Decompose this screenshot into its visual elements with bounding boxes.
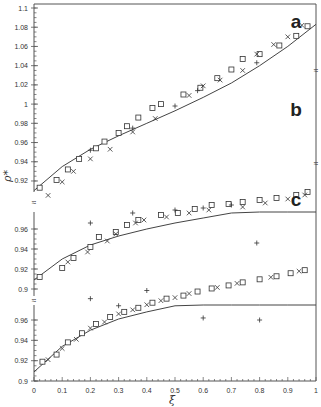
square-marker-icon: [226, 283, 231, 288]
square-marker-icon: [158, 102, 163, 107]
cross-marker-icon: [187, 211, 192, 216]
square-marker-icon: [257, 52, 262, 57]
square-marker-icon: [150, 105, 155, 110]
square-marker-icon: [37, 275, 42, 280]
square-marker-icon: [209, 286, 214, 291]
square-marker-icon: [305, 24, 310, 29]
square-marker-icon: [71, 256, 76, 261]
plus-marker-icon: [88, 221, 93, 226]
cross-marker-icon: [271, 42, 276, 47]
square-marker-icon: [60, 266, 65, 271]
x-tick-label: 0.1: [57, 387, 67, 394]
cross-marker-icon: [215, 285, 220, 290]
plus-marker-icon: [130, 211, 135, 216]
cross-marker-icon: [159, 298, 164, 303]
cross-marker-icon: [116, 312, 121, 317]
cross-marker-icon: [187, 291, 192, 296]
chart-canvas: ≈≈≈≈ 1.11.081.061.041.0210.980.960.940.9…: [0, 0, 321, 407]
y-tick-label: 0.92: [14, 266, 28, 273]
y-tick-label: 0.98: [14, 120, 28, 127]
x-axis-title: ξ: [169, 394, 176, 407]
square-marker-icon: [94, 322, 99, 327]
y-tick-label: 0.96: [14, 226, 28, 233]
square-marker-icon: [158, 213, 163, 218]
square-marker-icon: [240, 56, 245, 61]
square-marker-icon: [150, 300, 155, 305]
square-marker-icon: [274, 274, 279, 279]
cross-marker-icon: [207, 208, 212, 213]
fit-curve-c: [34, 305, 316, 372]
square-marker-icon: [54, 178, 59, 183]
panel-label-b: b: [290, 99, 302, 120]
square-marker-icon: [125, 223, 130, 228]
cross-marker-icon: [71, 169, 76, 174]
cross-marker-icon: [88, 157, 93, 162]
square-marker-icon: [122, 309, 127, 314]
cross-marker-icon: [46, 357, 51, 362]
square-marker-icon: [88, 245, 93, 250]
plus-marker-icon: [173, 104, 178, 109]
y-tick-label: 0.96: [14, 317, 28, 324]
y-tick-label: 1.02: [14, 81, 28, 88]
square-marker-icon: [79, 331, 84, 336]
square-marker-icon: [65, 340, 70, 345]
square-marker-icon: [257, 198, 262, 203]
y-tick-label: 0.9: [18, 286, 28, 293]
square-marker-icon: [240, 280, 245, 285]
cross-marker-icon: [297, 269, 302, 274]
x-tick-label: 0.7: [227, 387, 237, 394]
square-marker-icon: [77, 156, 82, 161]
square-marker-icon: [96, 235, 101, 240]
plus-marker-icon: [144, 288, 149, 293]
x-tick-label: 0: [32, 387, 36, 394]
y-tick-label: 0.9: [18, 378, 28, 385]
y-tick-label: 0.94: [14, 337, 28, 344]
cross-marker-icon: [269, 275, 274, 280]
cross-marker-icon: [85, 250, 90, 255]
fit-curve-b: [34, 212, 316, 280]
square-marker-icon: [175, 211, 180, 216]
panel-label-c: c: [291, 189, 302, 210]
cross-marker-icon: [108, 147, 113, 152]
cross-marker-icon: [187, 93, 192, 98]
axis-labels: 1.11.081.061.041.0210.980.960.940.92a0.9…: [14, 5, 318, 395]
cross-marker-icon: [66, 260, 71, 265]
plus-marker-icon: [257, 318, 262, 323]
square-marker-icon: [37, 185, 42, 190]
square-marker-icon: [164, 296, 169, 301]
cross-marker-icon: [173, 295, 178, 300]
square-marker-icon: [274, 196, 279, 201]
square-marker-icon: [209, 203, 214, 208]
square-marker-icon: [257, 277, 262, 282]
y-tick-label: 0.94: [14, 246, 28, 253]
x-tick-label: 1: [314, 387, 318, 394]
cross-marker-icon: [145, 302, 150, 307]
cross-marker-icon: [142, 218, 147, 223]
cross-marker-icon: [102, 320, 107, 325]
axis-break-icon: ≈: [32, 296, 37, 305]
square-marker-icon: [136, 115, 141, 120]
panel-label-a: a: [291, 11, 302, 32]
cross-marker-icon: [286, 35, 291, 40]
square-marker-icon: [102, 139, 107, 144]
plus-marker-icon: [116, 303, 121, 308]
x-tick-label: 0.8: [255, 387, 265, 394]
square-marker-icon: [195, 289, 200, 294]
cross-marker-icon: [235, 281, 240, 286]
y-tick-label: 0.92: [14, 177, 28, 184]
square-marker-icon: [125, 124, 130, 129]
square-marker-icon: [94, 146, 99, 151]
y-tick-label: 0.94: [14, 158, 28, 165]
x-tick-label: 0.3: [114, 387, 124, 394]
square-marker-icon: [277, 43, 282, 48]
plot-frame: ≈≈≈≈: [31, 4, 319, 381]
axis-break-icon: ≈: [314, 159, 319, 168]
cross-marker-icon: [240, 68, 245, 73]
y-tick-label: 1.1: [18, 5, 28, 12]
data-markers: [37, 23, 310, 364]
square-marker-icon: [294, 33, 299, 38]
x-tick-label: 0.9: [283, 387, 293, 394]
x-tick-label: 0.5: [170, 387, 180, 394]
plus-marker-icon: [201, 315, 206, 320]
cross-marker-icon: [130, 308, 135, 313]
